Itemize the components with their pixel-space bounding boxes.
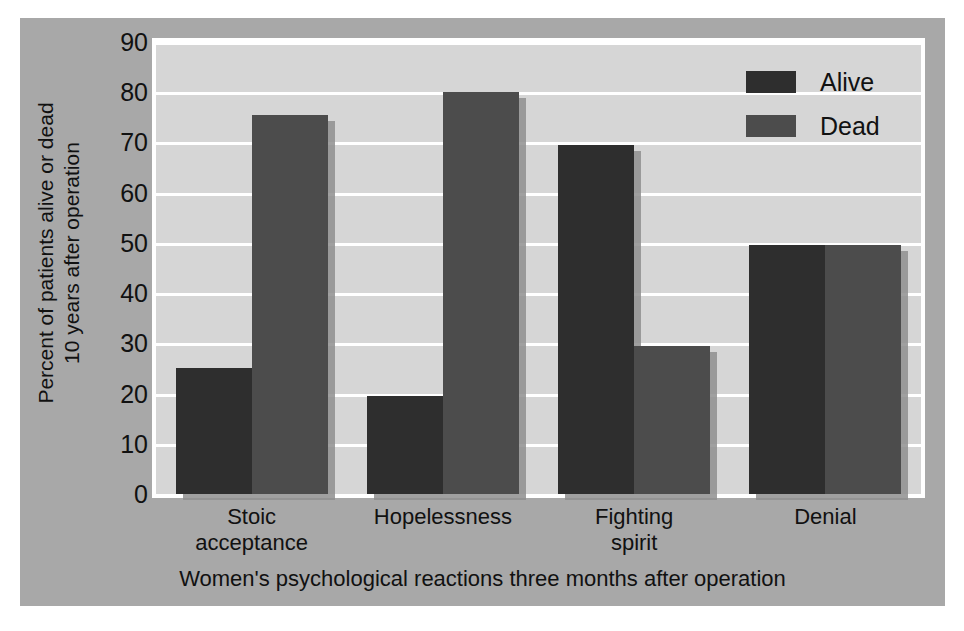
x-axis-tick-label: Fightingspirit <box>539 504 730 557</box>
legend-swatch-dead-icon <box>746 115 796 137</box>
bar-dead-hopelessness[interactable] <box>443 92 519 494</box>
bar-alive-denial[interactable] <box>749 245 825 494</box>
y-axis-tick-label: 90 <box>82 30 148 55</box>
y-axis-tick-label: 70 <box>82 130 148 155</box>
legend-item-alive[interactable]: Alive <box>746 60 922 104</box>
y-axis-tick-label: 20 <box>82 381 148 406</box>
x-axis-tick-labels: StoicacceptanceHopelessnessFightingspiri… <box>152 504 925 574</box>
x-axis-tick-label-line: spirit <box>539 530 730 556</box>
y-axis-tick-label: 30 <box>82 331 148 356</box>
bar-dead-fighting-spirit[interactable] <box>634 346 710 494</box>
x-axis-tick-label-line: acceptance <box>156 530 347 556</box>
legend-item-dead[interactable]: Dead <box>746 104 922 148</box>
y-axis-title-line-1: Percent of patients alive or dead <box>33 102 59 403</box>
x-axis-tick-label-line: Hopelessness <box>347 504 538 530</box>
chart-legend: AliveDead <box>746 60 922 148</box>
y-axis-tick-label: 80 <box>82 80 148 105</box>
y-axis-tick-label: 10 <box>82 431 148 456</box>
legend-label: Dead <box>820 114 880 139</box>
y-axis-tick-label: 60 <box>82 180 148 205</box>
x-axis-title: Women's psychological reactions three mo… <box>20 566 945 592</box>
legend-label: Alive <box>820 70 874 95</box>
x-axis-tick-label: Stoicacceptance <box>156 504 347 557</box>
bar-group <box>176 42 328 494</box>
plot-inner: AliveDead <box>156 42 921 494</box>
bar-alive-hopelessness[interactable] <box>367 396 443 494</box>
chart-figure: Percent of patients alive or dead 10 yea… <box>20 18 945 606</box>
bar-group <box>558 42 710 494</box>
y-axis-tick-label: 50 <box>82 230 148 255</box>
y-axis-tick-labels: 9080706050403020100 <box>82 26 148 498</box>
y-axis-title-line-2: 10 years after operation <box>59 142 85 364</box>
y-axis-tick-label: 40 <box>82 281 148 306</box>
x-axis-tick-label-line: Stoic <box>156 504 347 530</box>
x-axis-tick-label-line: Fighting <box>539 504 730 530</box>
bar-alive-fighting-spirit[interactable] <box>558 145 634 494</box>
legend-swatch-alive-icon <box>746 71 796 93</box>
y-axis-tick-label: 0 <box>82 482 148 507</box>
x-axis-tick-label: Hopelessness <box>347 504 538 530</box>
bar-dead-stoic-acceptance[interactable] <box>252 115 328 494</box>
bar-dead-denial[interactable] <box>825 245 901 494</box>
bar-alive-stoic-acceptance[interactable] <box>176 368 252 494</box>
y-axis-title: Percent of patients alive or dead 10 yea… <box>29 53 89 453</box>
x-axis-tick-label: Denial <box>730 504 921 530</box>
bar-group <box>367 42 519 494</box>
x-axis-tick-label-line: Denial <box>730 504 921 530</box>
plot-area: AliveDead <box>152 38 925 498</box>
